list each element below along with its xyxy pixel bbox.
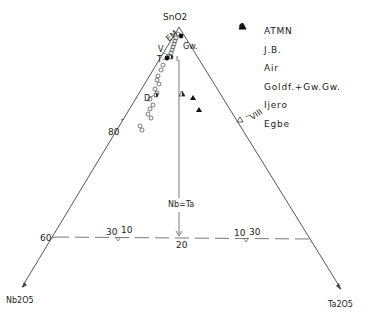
left-edge <box>22 27 179 287</box>
air-point <box>165 56 170 61</box>
legend-label: Egbe <box>264 119 290 129</box>
legend-item-ijero: Ijero <box>238 96 341 115</box>
nb-ta-label: Nb=Ta <box>168 200 194 209</box>
legend-label: J.B. <box>264 45 282 55</box>
ratio-30b-label: 30 <box>249 227 261 237</box>
point-label-i: I <box>176 55 178 63</box>
scale-80-label: 80 <box>108 127 120 137</box>
ratio-30-label: 30 <box>106 227 118 237</box>
vertex-sno2-label: SnO2 <box>163 12 187 22</box>
legend-label: Air <box>264 63 279 73</box>
point-label-gw: Gw. <box>183 42 198 51</box>
ratio-tick-left-icon <box>116 238 120 241</box>
dashed-isoline-20 <box>55 237 310 239</box>
legend-item-atmn: ATMN <box>238 22 341 41</box>
egbe-point <box>190 95 196 100</box>
scale-60-label: 60 <box>40 233 52 243</box>
air-point <box>179 34 184 39</box>
legend-item-jb: J.B. <box>238 41 341 60</box>
ijero-point <box>179 91 185 96</box>
legend-label: Goldf.+Gw.Gw. <box>264 82 341 92</box>
legend-item-air: Air <box>238 59 341 78</box>
arrow-ta-icon <box>336 283 341 290</box>
vertex-ta2o5-label: Ta2O5 <box>327 300 353 309</box>
ratio-10b-label: 10 <box>234 228 246 238</box>
jb-point <box>169 55 173 59</box>
point-label-v: V <box>158 45 164 54</box>
legend-label: ATMN <box>264 26 293 36</box>
legend-label: Ijero <box>264 100 288 110</box>
point-label-d: D <box>144 94 150 103</box>
egbe-point <box>196 107 202 112</box>
vertex-nb2o5-label: Nb2O5 <box>6 296 34 305</box>
ratio-tick-right-icon <box>244 239 248 242</box>
tick-80 <box>121 119 124 120</box>
jb-point <box>154 93 158 97</box>
legend-item-egbe: Egbe <box>238 115 341 134</box>
legend: ATMN J.B. Air Goldf.+Gw.Gw. Ijero Egbe <box>238 22 341 133</box>
legend-item-goldf: Goldf.+Gw.Gw. <box>238 78 341 97</box>
scale-20-label: 20 <box>176 240 188 250</box>
ratio-10-label: 10 <box>121 225 133 235</box>
point-label-t: T <box>156 55 162 64</box>
